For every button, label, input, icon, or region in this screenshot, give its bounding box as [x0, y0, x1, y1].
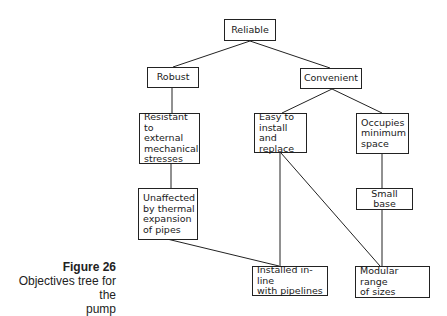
- figure-caption: Figure 26 Objectives tree for the pump: [0, 260, 116, 316]
- figure-number: Figure 26: [0, 260, 116, 274]
- node-reliable: Reliable: [224, 19, 276, 41]
- node-robust: Robust: [147, 67, 199, 88]
- node-small-base: Small base: [356, 188, 413, 210]
- node-resistant: Resistant to external mechanical stresse…: [139, 113, 200, 164]
- node-unaffected-thermal: Unaffected by thermal expansion of pipes: [138, 188, 198, 240]
- figure-description: Objectives tree for the pump: [0, 274, 116, 316]
- node-installed-in-line: Installed in-line with pipelines: [252, 266, 328, 296]
- node-convenient: Convenient: [300, 68, 362, 89]
- node-easy-to-install: Easy to install and replace: [254, 113, 307, 153]
- node-occupies-minimum-space: Occupies minimum space: [356, 113, 409, 154]
- node-modular-range: Modular range of sizes: [355, 266, 430, 298]
